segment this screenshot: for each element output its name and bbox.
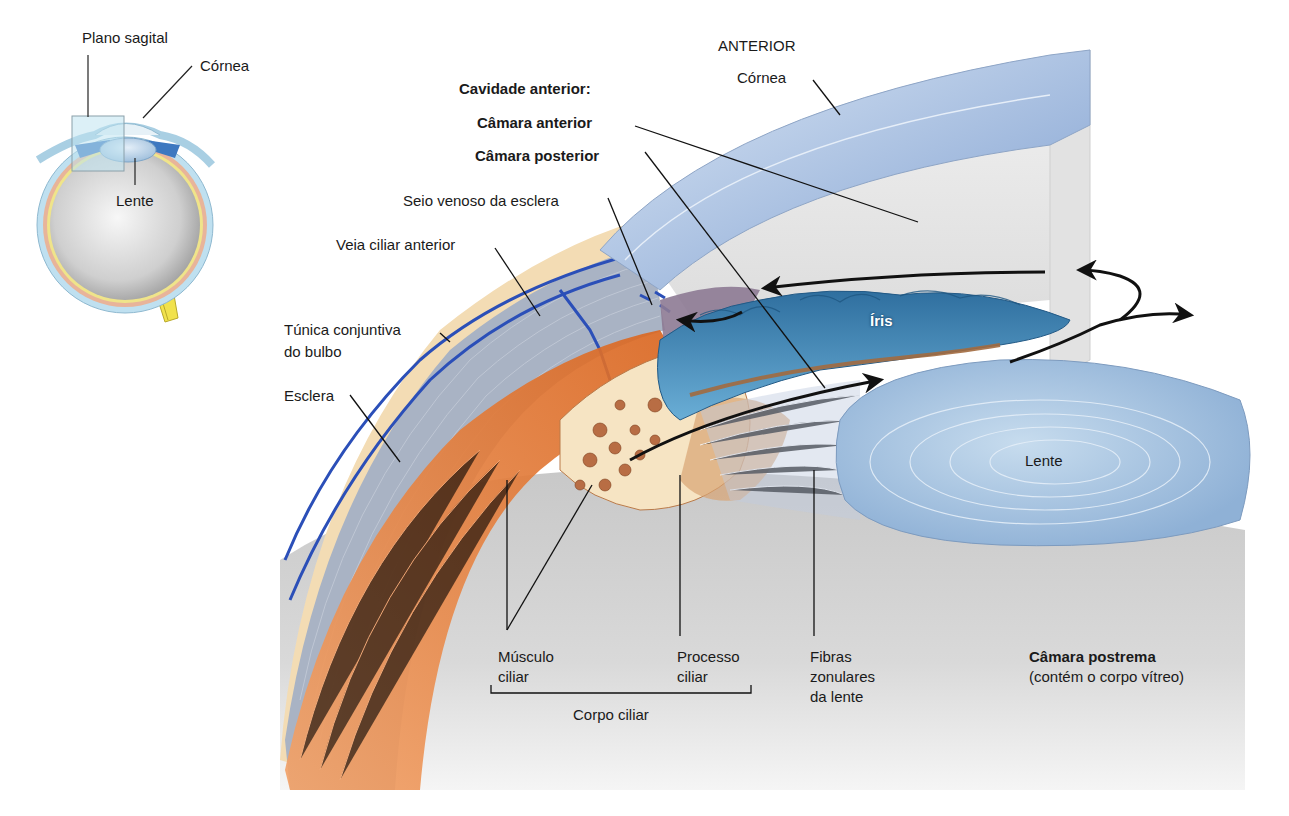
eye-anatomy-diagram: Plano sagital Córnea Lente (0, 0, 1289, 816)
label-camara-postrema-sub: (contém o corpo vítreo) (1029, 667, 1184, 686)
label-seio-venoso: Seio venoso da esclera (403, 191, 559, 210)
label-processo-ciliar-2: ciliar (677, 667, 708, 686)
label-corpo-ciliar: Corpo ciliar (573, 705, 649, 724)
label-tunica-conjuntiva-2: do bulbo (284, 342, 342, 361)
label-lente: Lente (1025, 451, 1063, 470)
label-camara-posterior: Câmara posterior (475, 146, 599, 165)
label-musculo-ciliar-2: ciliar (498, 667, 529, 686)
label-esclera: Esclera (284, 386, 334, 405)
label-camara-postrema: Câmara postrema (1029, 647, 1156, 666)
label-musculo-ciliar-1: Músculo (498, 647, 554, 666)
label-cavidade-anterior: Cavidade anterior: (459, 79, 591, 98)
label-tunica-conjuntiva-1: Túnica conjuntiva (284, 320, 401, 339)
label-fibras-1: Fibras (810, 647, 852, 666)
label-camara-anterior: Câmara anterior (477, 113, 592, 132)
orientation-label: ANTERIOR (718, 36, 796, 55)
label-fibras-3: da lente (810, 687, 863, 706)
label-iris: Íris (870, 311, 893, 330)
label-processo-ciliar-1: Processo (677, 647, 740, 666)
label-cornea: Córnea (737, 68, 786, 87)
main-cross-section-illustration (0, 0, 1289, 816)
label-veia-ciliar: Veia ciliar anterior (336, 235, 455, 254)
label-fibras-2: zonulares (810, 667, 875, 686)
